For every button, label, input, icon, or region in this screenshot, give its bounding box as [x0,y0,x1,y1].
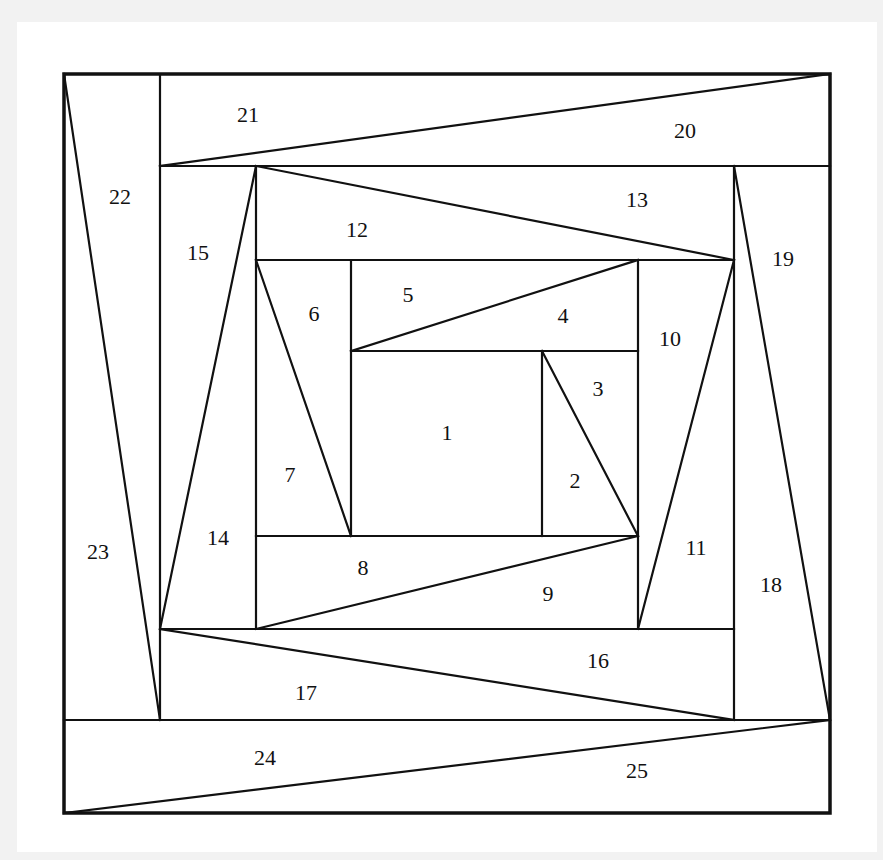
piece-label-10: 10 [659,326,681,351]
quilt-block-diagram: 1234567891011121314151617181920212223242… [0,0,883,860]
piece-label-22: 22 [109,184,131,209]
piece-label-9: 9 [543,581,554,606]
piece-label-18: 18 [760,572,782,597]
piece-label-14: 14 [207,525,229,550]
piece-label-11: 11 [685,535,706,560]
seam-line-d-14-15 [160,166,256,629]
piece-label-7: 7 [285,462,296,487]
piece-label-19: 19 [772,246,794,271]
seam-line-d-12-13 [256,166,734,260]
seam-line-d-24-25 [64,720,830,813]
piece-label-6: 6 [309,301,320,326]
piece-label-16: 16 [587,648,609,673]
seam-line-d-22-23 [64,74,160,720]
piece-label-5: 5 [403,282,414,307]
piece-label-25: 25 [626,758,648,783]
seam-line-d-8-9 [256,536,638,629]
piece-label-20: 20 [674,118,696,143]
piece-label-8: 8 [358,555,369,580]
piece-label-12: 12 [346,217,368,242]
piece-label-24: 24 [254,745,276,770]
piece-label-1: 1 [442,420,453,445]
piece-label-2: 2 [570,468,581,493]
piece-label-17: 17 [295,680,317,705]
piece-label-23: 23 [87,539,109,564]
piece-label-15: 15 [187,240,209,265]
seam-line-d-6-7 [256,260,351,536]
piece-label-21: 21 [237,102,259,127]
piece-label-13: 13 [626,187,648,212]
piece-label-3: 3 [593,376,604,401]
seam-line-d-2-3 [542,351,638,536]
seam-line-d-16-17 [160,629,734,720]
seam-line-d-20-21 [160,74,830,166]
seam-line-d-4-5 [351,260,638,351]
piece-labels: 1234567891011121314151617181920212223242… [87,102,794,783]
piece-label-4: 4 [558,303,569,328]
seam-line-d-10-11 [638,260,734,629]
